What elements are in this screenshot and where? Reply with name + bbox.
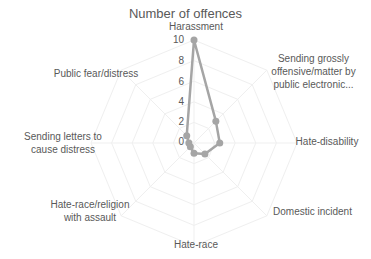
category-label-sending-grossly-offensive: Sending grossly offensive/matter by publ… (256, 52, 371, 91)
data-point-marker (191, 37, 198, 44)
axis-tick-2: 2 (170, 116, 184, 127)
category-label-hate-race-religion-assault: Hate-race/religion with assault (30, 198, 150, 224)
data-point-marker (191, 150, 198, 157)
series-line (187, 40, 220, 154)
category-label-sending-letters: Sending letters to cause distress (3, 130, 123, 156)
data-point-marker (185, 140, 192, 147)
category-label-public-fear-distress: Public fear/distress (36, 67, 156, 80)
category-label-hate-race: Hate-race (146, 238, 246, 251)
radar-chart: Number of offences Harassment Sending gr… (0, 0, 371, 259)
category-label-hate-disability: Hate-disability (282, 135, 371, 148)
data-point-marker (201, 150, 208, 157)
axis-tick-4: 4 (170, 96, 184, 107)
axis-tick-8: 8 (170, 55, 184, 66)
data-point-marker (183, 132, 190, 139)
axis-tick-10: 10 (170, 34, 184, 45)
data-point-marker (212, 118, 219, 125)
data-point-marker (216, 140, 223, 147)
axis-tick-0: 0 (170, 136, 184, 147)
axis-tick-6: 6 (170, 76, 184, 87)
category-label-harassment: Harassment (146, 20, 246, 33)
category-label-domestic-incident: Domestic incident (255, 205, 370, 218)
